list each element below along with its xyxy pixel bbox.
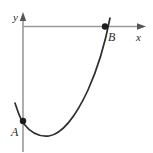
math-figure-canvas: y x A B xyxy=(0,0,153,153)
parabola-curve xyxy=(15,18,110,136)
x-axis-label: x xyxy=(135,31,141,43)
point-a-label: A xyxy=(10,125,19,139)
point-a-marker xyxy=(20,118,26,124)
point-b-marker xyxy=(102,23,108,29)
y-axis-arrow-icon xyxy=(20,12,26,21)
x-axis-arrow-icon xyxy=(137,23,146,30)
coordinate-plane-svg: y x A B xyxy=(0,0,153,153)
y-axis-label: y xyxy=(12,11,18,23)
point-b-label: B xyxy=(108,30,116,44)
